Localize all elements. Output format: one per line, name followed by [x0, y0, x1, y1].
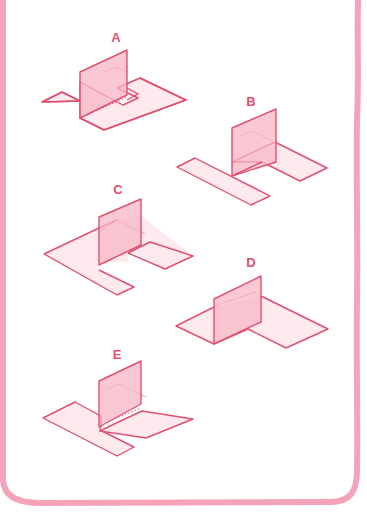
figure-b	[177, 109, 327, 205]
figure-e	[43, 361, 193, 456]
diagram-stage: A B C D E	[0, 0, 367, 530]
figure-c	[44, 199, 193, 295]
diagram-canvas	[0, 0, 367, 530]
figure-a	[42, 50, 186, 130]
figure-c-label: C	[113, 182, 122, 197]
figure-d-label: D	[246, 255, 255, 270]
figure-a-label: A	[111, 30, 120, 45]
figure-b-label: B	[246, 94, 255, 109]
figure-d	[176, 276, 328, 348]
figure-e-label: E	[113, 347, 122, 362]
figure-c-panel	[99, 199, 141, 265]
